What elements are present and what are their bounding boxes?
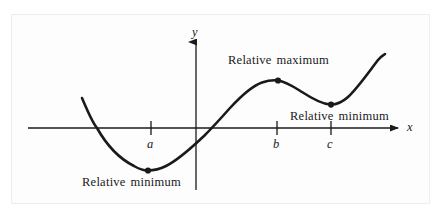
relative-maximum-label: Relative maximum — [228, 54, 329, 67]
x-axis-label: x — [407, 121, 413, 134]
tick-label-b: b — [273, 138, 279, 151]
tick-label-a: a — [147, 138, 153, 151]
relative-maximum-point — [275, 77, 281, 83]
relative-minimum-left-label: Relative minimum — [82, 176, 181, 189]
figure-container: x y a b c Relative minimum Relative maxi… — [0, 0, 442, 220]
y-axis-label: y — [192, 26, 198, 39]
relative-minimum-right-label: Relative minimum — [290, 110, 389, 123]
relative-minimum-point-left — [145, 167, 151, 173]
tick-label-c: c — [327, 138, 333, 151]
relative-minimum-point-right — [328, 102, 334, 108]
